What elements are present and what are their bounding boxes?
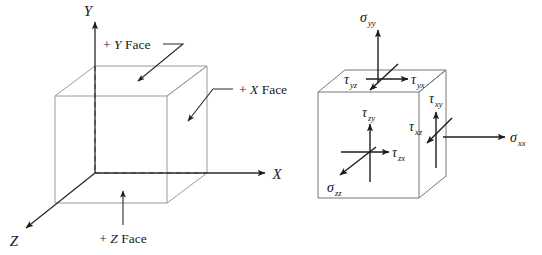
left-axis-x-label: X — [271, 166, 282, 182]
left-callout-y-face: + Y Face — [103, 37, 183, 81]
left-cube — [55, 66, 207, 203]
left-callout-x-face-label: + X Face — [239, 82, 287, 97]
left-axis-y-label: Y — [84, 3, 94, 19]
stress-tau-zy-label: τzy — [362, 105, 375, 123]
stress-sigma-zz: σzz — [327, 147, 376, 198]
left-cube-top-face — [55, 66, 207, 96]
stress-tau-yz-label: τyz — [344, 72, 358, 90]
stress-sigma-zz-label: σzz — [327, 180, 342, 198]
left-callout-x-face-leader — [188, 89, 233, 121]
right-diagram: σyy τyx τyz τzy — [318, 10, 526, 198]
stress-tau-zx-label: τzx — [392, 145, 405, 163]
right-cube — [318, 70, 446, 198]
left-cube-right-face — [167, 66, 207, 203]
stress-sigma-yy-label: σyy — [360, 10, 376, 28]
left-callout-z-face-label: + Z Face — [99, 231, 146, 246]
stress-tau-xz-arrow — [427, 118, 452, 143]
stress-tau-yx-label: τyx — [411, 72, 425, 90]
left-callout-z-face: + Z Face — [99, 191, 146, 246]
stress-figure: Y X Z + Y Face + X Face + Z — [0, 0, 542, 255]
stress-sigma-xx: σxx — [443, 130, 526, 148]
stress-tau-xz-label: τxz — [409, 119, 423, 137]
stress-sigma-xx-label: σxx — [510, 130, 526, 148]
left-cube-front-face — [55, 96, 167, 203]
stress-tau-xy-label: τxy — [429, 91, 443, 109]
left-axis-z-label: Z — [10, 233, 19, 249]
left-diagram: Y X Z + Y Face + X Face + Z — [10, 3, 287, 249]
stress-tau-zy: τzy — [362, 105, 375, 182]
stress-tau-zx: τzx — [341, 145, 405, 163]
figure-canvas: Y X Z + Y Face + X Face + Z — [0, 0, 542, 255]
left-callout-x-face: + X Face — [188, 82, 287, 121]
left-axis-z-line — [26, 173, 95, 228]
stress-tau-yx: τyx — [366, 72, 425, 90]
right-cube-top-face — [318, 70, 446, 92]
stress-tau-yz-arrow — [370, 64, 398, 90]
stress-tau-yz: τyz — [344, 64, 398, 90]
left-callout-y-face-label: + Y Face — [103, 37, 150, 52]
stress-sigma-yy: σyy — [360, 10, 378, 83]
